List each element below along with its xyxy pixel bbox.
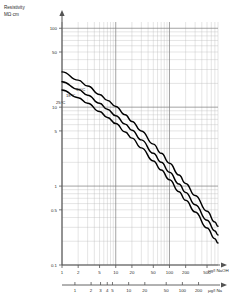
resistivity-chart: 1005010510.50.1 125102050100200500 12345… <box>0 0 236 305</box>
x-naoh-tick-label-7: 200 <box>182 270 190 275</box>
x-naoh-tick-label-6: 100 <box>166 270 174 275</box>
curve-label-2: 25°C <box>56 100 65 105</box>
x-na-tick-label-9: 200 <box>195 288 203 293</box>
y-tick-label-5: 0.5 <box>51 208 58 213</box>
x-axis-title-naoh: µg/l NaOH <box>208 268 229 273</box>
curve-label-0: 10°C <box>76 87 85 92</box>
chart-canvas: 1005010510.50.1 125102050100200500 12345… <box>0 0 236 305</box>
x-na-tick-label-7: 50 <box>164 288 169 293</box>
x-naoh-tick-label-5: 50 <box>151 270 156 275</box>
x-axis-title-na: µg/l Na <box>208 288 223 293</box>
y-tick-label-2: 10 <box>52 105 57 110</box>
x-na-tick-label-8: 100 <box>179 288 187 293</box>
x-naoh-tick-label-3: 10 <box>113 270 118 275</box>
y-axis-title-unit: MΩ·cm <box>4 12 19 17</box>
y-axis-title-line1: Resistivity <box>4 5 25 10</box>
curve-label-1: 18°C <box>66 93 75 98</box>
x-na-tick-label-5: 10 <box>126 288 131 293</box>
x-naoh-tick-label-4: 20 <box>129 270 134 275</box>
x-na-tick-label-6: 20 <box>142 288 147 293</box>
y-tick-label-6: 0.1 <box>51 263 58 268</box>
y-tick-label-1: 50 <box>52 50 57 55</box>
y-tick-label-0: 100 <box>50 26 58 31</box>
